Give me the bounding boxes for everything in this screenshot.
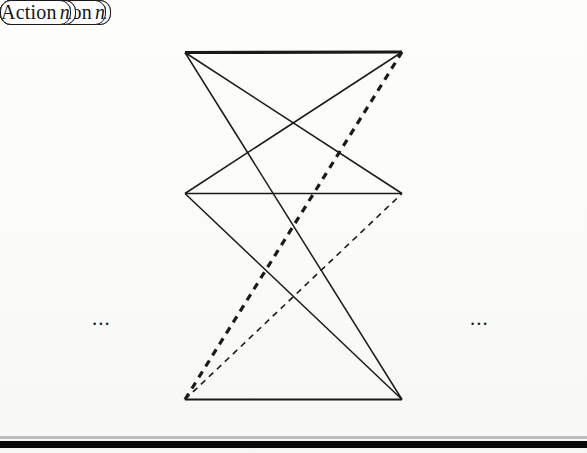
ellipsis-left: ... [92,308,111,329]
node-action-n[interactable]: Actionn [0,0,71,25]
page-bottom-bar [0,441,587,448]
node-label: Action [1,1,57,24]
node-label-italic: n [57,1,70,24]
edge-s1-a1 [185,52,402,53]
node-label-italic: n [92,1,105,24]
ellipsis-right: ... [470,308,489,329]
page-edge-shadow [0,436,587,439]
edge-layer [0,0,587,453]
edge-s1-an [185,53,402,400]
diagram-canvas: Suggestion 1 Suggestion 2 Suggestionn Ac… [0,0,587,453]
